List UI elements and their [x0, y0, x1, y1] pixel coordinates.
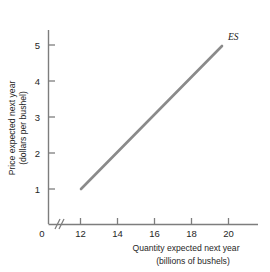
x-axis-tick-labels: 12 14 16 18 20	[75, 228, 234, 239]
x-axis-title-line2: (billions of bushels)	[156, 256, 230, 266]
expected-supply-line	[81, 46, 222, 189]
y-tick-label-3: 3	[35, 112, 40, 123]
x-axis-title-line1: Quantity expected next year	[132, 243, 239, 253]
x-tick-label-18: 18	[186, 228, 197, 239]
x-tick-label-14: 14	[112, 228, 123, 239]
x-axis-ticks	[81, 218, 229, 225]
y-tick-label-2: 2	[35, 148, 40, 159]
axes-group	[49, 30, 259, 225]
y-axis-title: Price expected next year (dollars per bu…	[7, 81, 28, 176]
x-tick-label-16: 16	[149, 228, 160, 239]
y-axis-ticks	[49, 45, 56, 189]
x-tick-label-20: 20	[223, 228, 234, 239]
y-axis-tick-labels: 1 2 3 4 5	[35, 40, 40, 195]
supply-curve-chart: 1 2 3 4 5 12 14 16 18 20 0 ES Quantity e…	[0, 0, 270, 272]
series-label-es: ES	[227, 32, 239, 42]
y-axis-title-line2: (dollars per bushel)	[18, 91, 28, 165]
y-tick-label-5: 5	[35, 40, 40, 51]
y-axis-title-line1: Price expected next year	[7, 81, 17, 176]
x-tick-label-12: 12	[75, 228, 86, 239]
chart-canvas: 1 2 3 4 5 12 14 16 18 20 0 ES Quantity e…	[0, 0, 270, 272]
y-tick-label-4: 4	[35, 76, 40, 87]
origin-label: 0	[39, 228, 44, 239]
y-tick-label-1: 1	[35, 184, 40, 195]
x-axis-title: Quantity expected next year (billions of…	[132, 243, 239, 266]
